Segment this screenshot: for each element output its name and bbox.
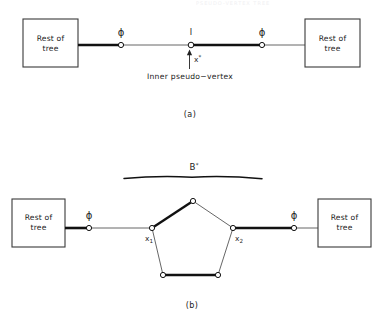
panel-b-right-phi-node — [291, 225, 296, 230]
panel-b: B* Rest of tree ϕ ϕ Rest of tree — [12, 162, 371, 310]
blossom-label: B* — [190, 162, 199, 172]
inner-pseudo-vertex-caption: Inner pseudo−vertex — [147, 72, 233, 81]
blossom-node-x2 — [230, 225, 235, 230]
panel-b-left-box: Rest of tree — [12, 199, 65, 247]
blossom-node-bottom-right — [215, 272, 220, 277]
x2-subscript: 2 — [239, 238, 243, 244]
x-star-label: x* — [194, 54, 201, 64]
rest-of-tree-label-line1: Rest of — [319, 34, 347, 43]
panel-a-left-phi-node — [118, 42, 123, 47]
panel-label-b: (b) — [186, 301, 199, 310]
blossom-node-x1 — [149, 225, 154, 230]
figure-root: Rest of tree ϕ I ϕ Rest of tree — [0, 0, 385, 322]
x1-subscript: 1 — [149, 238, 153, 244]
rest-of-tree-label-line1: Rest of — [331, 213, 359, 222]
panel-a-left-phi-label: ϕ — [118, 27, 125, 38]
blossom-node-top — [190, 198, 195, 203]
panel-a-right-phi-node — [259, 42, 264, 47]
rest-of-tree-label-line2: tree — [336, 223, 352, 232]
panel-b-right-box: Rest of tree — [318, 199, 371, 247]
rest-of-tree-label-line2: tree — [42, 44, 58, 53]
panel-b-right-phi-label: ϕ — [291, 210, 298, 221]
blossom-edge-bl-x1 — [152, 228, 163, 275]
panel-a-right-box: Rest of tree — [305, 19, 360, 67]
panel-a-left-box: Rest of tree — [23, 19, 78, 67]
rest-of-tree-label-line2: tree — [324, 44, 340, 53]
blossom-node-bottom-left — [160, 272, 165, 277]
blossom-edge-x2-br — [218, 228, 233, 275]
panel-b-left-phi-label: ϕ — [86, 210, 93, 221]
figure-svg: Rest of tree ϕ I ϕ Rest of tree — [0, 0, 385, 322]
x-star-arrow — [187, 49, 192, 69]
blossom-edge-x1-top — [152, 201, 193, 228]
blossom-vertex-x1-label: x1 — [145, 234, 153, 244]
blossom-label-superscript: * — [196, 162, 199, 168]
rest-of-tree-box-outline — [23, 19, 78, 67]
panel-b-left-phi-node — [86, 225, 91, 230]
rest-of-tree-label-line1: Rest of — [25, 213, 53, 222]
blossom-edge-top-x2 — [193, 201, 233, 228]
inner-pseudo-vertex-node — [188, 42, 194, 48]
inner-pseudo-vertex-I-label: I — [190, 28, 192, 37]
blossom-pentagon — [149, 198, 235, 277]
panel-a-right-phi-label: ϕ — [259, 27, 266, 38]
panel-a: Rest of tree ϕ I ϕ Rest of tree — [23, 19, 360, 119]
blossom-brace — [124, 176, 262, 178]
rest-of-tree-box-outline — [305, 19, 360, 67]
rest-of-tree-label-line1: Rest of — [37, 34, 65, 43]
blossom-vertex-x2-label: x2 — [235, 234, 243, 244]
rest-of-tree-label-line2: tree — [30, 223, 46, 232]
panel-label-a: (a) — [184, 110, 196, 119]
x-star-superscript: * — [198, 54, 201, 60]
